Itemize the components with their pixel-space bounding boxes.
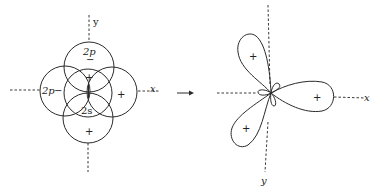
lower-left-lobe-sign: + — [242, 123, 250, 134]
center-circle-sign: + — [85, 72, 93, 83]
small-upper-lobe — [271, 83, 280, 93]
lower-left-lobe — [231, 93, 271, 147]
transformation-arrow — [177, 91, 194, 96]
bottom-circle-sign: + — [85, 126, 93, 137]
top-circle-sign: − — [86, 54, 94, 65]
y-axis-bottom — [265, 122, 268, 172]
right-lobe — [271, 81, 334, 111]
right-lobe-sign: + — [313, 92, 321, 103]
left-circle-sign: − — [54, 85, 62, 96]
center-circle-label: 2s — [81, 105, 93, 116]
y-axis-label: y — [92, 16, 99, 27]
hybrid-orbital-diagram: y x 2p − 2p − + 2s + + x y — [0, 0, 377, 191]
upper-left-lobe — [238, 34, 271, 93]
x-axis-label: x — [150, 83, 156, 94]
arrow-head-icon — [189, 91, 194, 96]
upper-left-lobe-sign: + — [249, 51, 257, 62]
left-figure: y x 2p − 2p − + 2s + + — [10, 15, 160, 172]
right-figure: x y + + + — [217, 5, 370, 186]
x-axis-label: x — [364, 92, 370, 103]
small-lower-lobe — [271, 93, 276, 106]
y-axis-label: y — [260, 175, 267, 186]
right-circle-sign: + — [117, 89, 125, 100]
x-axis-right — [334, 97, 365, 98]
